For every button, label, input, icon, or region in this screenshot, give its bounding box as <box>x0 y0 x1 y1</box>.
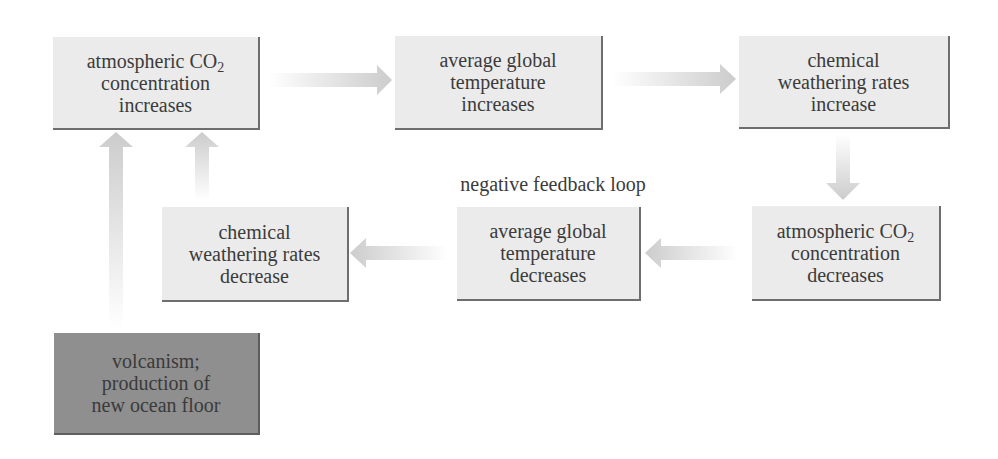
node-text: chemical <box>778 49 910 71</box>
node-text: concentration <box>777 242 915 264</box>
node-text: chemical <box>189 221 321 243</box>
arrow-right-icon <box>612 64 736 94</box>
node-text: concentration <box>87 72 225 94</box>
node-text: decrease <box>189 265 321 287</box>
node-text: average global <box>439 49 556 71</box>
arrow-down-icon <box>826 134 860 200</box>
node-volcanism: volcanism; production of new ocean floor <box>54 333 260 435</box>
node-text: increases <box>87 94 225 116</box>
node-temp-increases: average global temperature increases <box>395 36 603 130</box>
arrow-left-icon <box>645 238 738 268</box>
node-text: decreases <box>489 264 606 286</box>
arrow-left-icon <box>350 238 448 268</box>
node-temp-decreases: average global temperature decreases <box>457 207 641 301</box>
negative-feedback-loop-label: negative feedback loop <box>443 173 663 195</box>
node-text: temperature <box>439 71 556 93</box>
subscript: 2 <box>907 230 914 245</box>
node-weathering-decrease: chemical weathering rates decrease <box>162 207 349 302</box>
node-text: production of <box>92 372 221 394</box>
node-co2-decreases: atmospheric CO2 concentration decreases <box>752 206 941 301</box>
node-co2-increases: atmospheric CO2 concentration increases <box>53 37 260 130</box>
node-weathering-increase: chemical weathering rates increase <box>739 36 950 129</box>
node-text: volcanism; <box>92 350 221 372</box>
node-text: increase <box>778 93 910 115</box>
arrow-up-icon <box>185 132 219 200</box>
node-text: atmospheric CO <box>777 220 908 242</box>
arrow-right-icon <box>268 65 392 95</box>
node-text: new ocean floor <box>92 394 221 416</box>
node-text: weathering rates <box>189 243 321 265</box>
node-text: average global <box>489 220 606 242</box>
node-text: decreases <box>777 264 915 286</box>
node-text: increases <box>439 93 556 115</box>
arrow-up-icon <box>99 132 133 330</box>
subscript: 2 <box>217 60 224 75</box>
node-text: temperature <box>489 242 606 264</box>
node-text: weathering rates <box>778 71 910 93</box>
node-text: atmospheric CO <box>87 50 218 72</box>
